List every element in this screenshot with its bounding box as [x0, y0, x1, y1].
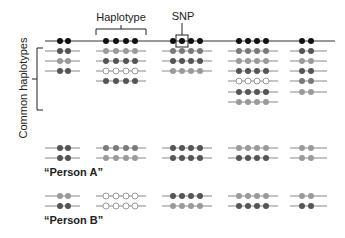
- snp-dot: [263, 38, 269, 44]
- snp-dot: [308, 193, 314, 199]
- common-haplotype-row: [290, 68, 327, 74]
- common-haplotype-row: [290, 89, 327, 95]
- snp-dot: [197, 203, 203, 209]
- snp-dot: [113, 48, 119, 54]
- snp-dot: [123, 155, 129, 161]
- snp-dot: [179, 155, 185, 161]
- person-a-label: “Person A”: [44, 166, 103, 178]
- snp-dot: [254, 145, 260, 151]
- snp-dot: [188, 203, 194, 209]
- snp-dot: [308, 155, 314, 161]
- person-a-haplotype: [228, 155, 278, 161]
- snp-dot: [254, 58, 260, 64]
- snp-dot: [113, 155, 119, 161]
- snp-dot: [236, 68, 242, 74]
- person-b-haplotype: [162, 193, 212, 199]
- common-haplotype-row: [228, 89, 278, 95]
- person-b-haplotype: [290, 203, 327, 209]
- snp-dot: [170, 48, 176, 54]
- person-a-haplotype: [162, 145, 212, 151]
- snp-dot: [113, 203, 119, 209]
- snp-dot: [299, 38, 305, 44]
- snp-dot: [236, 99, 242, 105]
- snp-dot: [170, 193, 176, 199]
- person-a-haplotype: [290, 145, 327, 151]
- common-haplotype-row: [290, 48, 327, 54]
- snp-dot: [308, 68, 314, 74]
- snp-dot: [188, 58, 194, 64]
- snp-dot: [299, 155, 305, 161]
- person-a-haplotype: [162, 155, 212, 161]
- snp-dot: [170, 155, 176, 161]
- common-haplotype-row: [96, 68, 146, 74]
- snp-dot: [179, 203, 185, 209]
- snp-dot: [263, 78, 269, 84]
- common-haplotype-row: [45, 68, 80, 74]
- snp-label: SNP: [172, 10, 195, 22]
- snp-dot: [123, 58, 129, 64]
- common-haplotype-row: [45, 58, 80, 64]
- snp-dot: [103, 78, 109, 84]
- snp-dot: [299, 193, 305, 199]
- person-b-label: “Person B”: [44, 214, 103, 226]
- snp-dot: [65, 38, 71, 44]
- snp-dot: [245, 38, 251, 44]
- snp-dot: [236, 38, 242, 44]
- snp-dot: [103, 193, 109, 199]
- snp-dot: [132, 58, 138, 64]
- common-haplotype-row: [162, 68, 212, 74]
- common-haplotypes-label: Common haplotypes: [17, 37, 29, 138]
- snp-dot: [308, 48, 314, 54]
- snp-dot: [179, 68, 185, 74]
- snp-dot: [299, 68, 305, 74]
- snp-dot: [170, 58, 176, 64]
- snp-dot: [123, 38, 129, 44]
- snp-dot: [263, 48, 269, 54]
- snp-dot: [188, 38, 194, 44]
- snp-dot: [132, 78, 138, 84]
- snp-dot: [197, 145, 203, 151]
- snp-dot: [308, 78, 314, 84]
- snp-dot: [123, 203, 129, 209]
- snp-dot: [65, 48, 71, 54]
- snp-dot: [188, 193, 194, 199]
- person-a-haplotype: [45, 155, 80, 161]
- snp-dot: [245, 78, 251, 84]
- snp-dot: [188, 155, 194, 161]
- snp-dot: [123, 48, 129, 54]
- snp-dot: [113, 58, 119, 64]
- snp-dot: [245, 58, 251, 64]
- snp-dot: [245, 203, 251, 209]
- snp-dot: [179, 48, 185, 54]
- snp-dot: [245, 145, 251, 151]
- snp-dot: [179, 58, 185, 64]
- common-haplotype-row: [96, 78, 146, 84]
- person-a-haplotype: [96, 145, 146, 151]
- snp-dot: [65, 145, 71, 151]
- snp-dot: [170, 68, 176, 74]
- snp-dot: [170, 203, 176, 209]
- snp-dot: [308, 203, 314, 209]
- snp-dot: [113, 78, 119, 84]
- snp-dot: [103, 68, 109, 74]
- snp-dot: [236, 48, 242, 54]
- person-b-haplotype: [45, 203, 80, 209]
- snp-dot: [254, 99, 260, 105]
- common-haplotype-row: [162, 58, 212, 64]
- snp-dot: [245, 48, 251, 54]
- snp-dot: [197, 155, 203, 161]
- common-haplotype-row: [228, 99, 278, 105]
- snp-dot: [236, 155, 242, 161]
- snp-dot: [65, 58, 71, 64]
- snp-dot: [263, 203, 269, 209]
- snp-dot: [113, 145, 119, 151]
- snp-dot: [65, 193, 71, 199]
- common-haplotype-row: [228, 78, 278, 84]
- snp-dot: [57, 193, 63, 199]
- snp-dot: [254, 155, 260, 161]
- snp-dot: [299, 58, 305, 64]
- common-haplotype-row: [228, 48, 278, 54]
- snp-dot: [103, 155, 109, 161]
- snp-dot: [113, 193, 119, 199]
- snp-dot: [188, 48, 194, 54]
